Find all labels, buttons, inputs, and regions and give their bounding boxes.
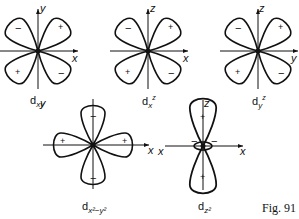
sign-plus: + bbox=[125, 67, 130, 77]
sign-plus: + bbox=[200, 112, 205, 122]
sign-minus: − bbox=[211, 135, 217, 147]
sign-plus: + bbox=[235, 67, 240, 77]
axis-label-z: z bbox=[204, 97, 210, 109]
sign-minus: − bbox=[235, 22, 241, 34]
orbital-label-dz2: dz² bbox=[198, 200, 211, 215]
sign-minus: − bbox=[90, 172, 96, 184]
sign-plus: + bbox=[200, 172, 205, 182]
figure-caption: Fig. 91 bbox=[262, 201, 296, 216]
axis-label-z: z bbox=[259, 2, 265, 14]
sign-minus: − bbox=[125, 22, 131, 34]
panel-dyz bbox=[220, 9, 298, 89]
orbital-label-dyz: dyz bbox=[252, 94, 266, 110]
sign-minus: − bbox=[90, 110, 96, 122]
sign-plus: + bbox=[60, 136, 65, 146]
sign-plus: + bbox=[15, 67, 20, 77]
axis-label-x: x bbox=[72, 52, 78, 64]
axis-label-y: y bbox=[40, 97, 46, 109]
orbital-label-dx2-y2: dx²−y² bbox=[82, 200, 106, 215]
axis-label-y: y bbox=[40, 2, 46, 14]
panel-dxz bbox=[110, 9, 188, 89]
sign-minus: − bbox=[15, 22, 21, 34]
axis-label-x: x bbox=[183, 52, 189, 64]
axis-label-x-neg: x bbox=[158, 145, 164, 157]
axis-label-x: x bbox=[148, 144, 154, 156]
axis-label-z: z bbox=[150, 2, 156, 14]
sign-plus: + bbox=[58, 22, 63, 32]
orbital-label-dxz: dxz bbox=[142, 94, 156, 110]
sign-minus: − bbox=[58, 67, 64, 79]
sign-minus: − bbox=[191, 135, 197, 147]
sign-minus: − bbox=[168, 67, 174, 79]
sign-plus: + bbox=[168, 22, 173, 32]
sign-minus: − bbox=[278, 67, 284, 79]
sign-plus: + bbox=[122, 136, 127, 146]
axis-label-x: x bbox=[240, 145, 246, 157]
axis-label-y: y bbox=[291, 52, 297, 64]
panel-dxy bbox=[0, 9, 78, 89]
sign-plus: + bbox=[278, 22, 283, 32]
